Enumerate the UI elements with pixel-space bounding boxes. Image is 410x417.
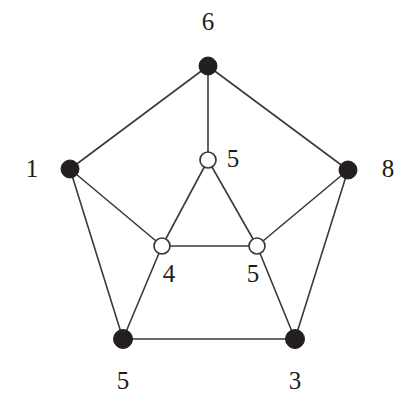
node-label: 8 bbox=[382, 156, 395, 181]
node-label: 4 bbox=[163, 261, 176, 286]
graph-edge bbox=[208, 160, 257, 246]
graph-node-filled bbox=[199, 57, 217, 75]
graph-canvas bbox=[0, 0, 410, 417]
graph-edge bbox=[257, 246, 295, 339]
graph-node-open bbox=[249, 238, 265, 254]
graph-figure: 61854553 bbox=[0, 0, 410, 417]
graph-node-filled bbox=[339, 161, 357, 179]
graph-node-open bbox=[200, 152, 216, 168]
nodes-group bbox=[61, 57, 357, 349]
graph-edge bbox=[70, 169, 162, 246]
graph-node-filled bbox=[61, 160, 79, 178]
edges-group bbox=[70, 66, 348, 339]
graph-edge bbox=[295, 170, 348, 339]
node-label: 5 bbox=[247, 261, 260, 286]
graph-edge bbox=[70, 169, 123, 339]
graph-node-filled bbox=[286, 330, 305, 349]
node-label: 5 bbox=[227, 146, 240, 171]
graph-edge bbox=[70, 66, 208, 169]
graph-edge bbox=[123, 246, 162, 339]
graph-edge bbox=[257, 170, 348, 246]
graph-node-filled bbox=[114, 330, 133, 349]
node-label: 3 bbox=[289, 368, 302, 393]
node-label: 1 bbox=[26, 156, 39, 181]
node-label: 6 bbox=[202, 9, 215, 34]
node-label: 5 bbox=[117, 368, 130, 393]
graph-node-open bbox=[154, 238, 170, 254]
graph-edge bbox=[162, 160, 208, 246]
